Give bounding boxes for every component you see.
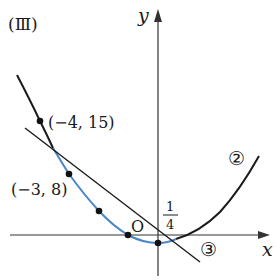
point-minus3-8 [66,171,73,178]
point-a-label: (−4, 15) [48,113,115,132]
curve-2-label: ② [228,147,245,169]
origin-label: O [131,217,144,236]
y-axis-label: y [137,4,149,26]
curve-2-right-part [176,156,259,239]
point-b-label: (−3, 8) [11,180,67,199]
point-minus1 [125,232,132,239]
fraction-numerator: 1 [166,199,174,214]
y-axis-arrow-icon [154,9,162,22]
fraction-denominator: 4 [166,217,174,232]
y-intercept-fraction: 1 4 [163,199,178,232]
point-0 [155,240,162,247]
line-3-label: ③ [200,238,217,260]
x-axis-label: x [262,238,273,260]
curve-2-left-part [17,75,53,148]
figure-label: (Ⅲ) [8,14,38,34]
point-minus4-15 [37,118,44,125]
math-diagram: (Ⅲ) x y O (−4, 15) (−3, 8) 1 4 ② ③ [0,0,277,280]
point-minus2 [96,208,103,215]
